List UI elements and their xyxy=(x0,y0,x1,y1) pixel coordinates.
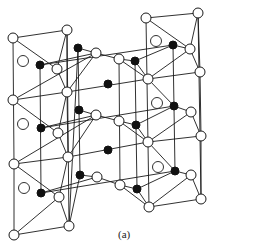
filled-circle-atom xyxy=(37,124,45,132)
crystal-structure-diagram xyxy=(0,0,262,247)
filled-circle-atom xyxy=(36,61,44,69)
filled-circle-atom xyxy=(104,80,112,88)
open-circle-atom xyxy=(91,110,101,120)
open-circle-atom xyxy=(114,116,124,126)
bond-line xyxy=(40,53,96,65)
open-circle-atom xyxy=(186,170,196,180)
large-hollow-circle-atom xyxy=(19,183,30,194)
filled-circle-atom xyxy=(171,167,179,175)
bond-line xyxy=(69,48,78,226)
bond-line xyxy=(149,175,191,207)
open-circle-atom xyxy=(193,8,203,18)
open-circle-atom xyxy=(196,194,206,204)
open-circle-atom xyxy=(91,48,101,58)
bond-line xyxy=(14,197,59,235)
figure-caption: (a) xyxy=(118,228,130,240)
large-hollow-circle-atom xyxy=(18,119,29,130)
filled-circle-atom xyxy=(75,106,83,114)
bond-line xyxy=(14,226,69,235)
bond-line xyxy=(135,45,173,61)
open-circle-atom xyxy=(9,159,19,169)
filled-circle-atom xyxy=(170,102,178,110)
bond-line xyxy=(41,106,174,128)
open-circle-atom xyxy=(92,172,102,182)
open-circle-atom xyxy=(62,87,72,97)
open-circle-atom xyxy=(54,192,64,202)
filled-circle-atom xyxy=(131,57,139,65)
large-hollow-circle-atom xyxy=(152,98,163,109)
open-circle-atom xyxy=(115,180,125,190)
open-circle-atom xyxy=(114,54,124,64)
open-circle-atom xyxy=(52,64,62,74)
open-circle-atom xyxy=(63,152,73,162)
bond-line xyxy=(146,13,198,18)
filled-circle-atom xyxy=(132,121,140,129)
bond-line xyxy=(41,171,175,193)
open-circle-atom xyxy=(53,128,63,138)
open-circle-atom xyxy=(8,95,18,105)
bond-line xyxy=(57,30,67,69)
bond-line xyxy=(149,199,201,207)
bond-line xyxy=(58,92,67,133)
bond-line xyxy=(146,18,149,207)
open-circle-atom xyxy=(8,33,18,43)
bond-line xyxy=(190,13,198,49)
open-circle-atom xyxy=(64,221,74,231)
open-circle-atom xyxy=(186,107,196,117)
open-circle-atom xyxy=(9,230,19,240)
open-circle-atom xyxy=(141,13,151,23)
filled-circle-atom xyxy=(76,171,84,179)
bond-line xyxy=(79,110,80,175)
bond-line xyxy=(59,157,68,197)
large-hollow-circle-atom xyxy=(18,56,29,67)
bond-line xyxy=(13,30,67,38)
open-circle-atom xyxy=(195,67,205,77)
bond-line xyxy=(41,115,96,128)
filled-circle-atom xyxy=(133,185,141,193)
open-circle-atom xyxy=(62,25,72,35)
atoms xyxy=(8,8,206,240)
open-circle-atom xyxy=(196,131,206,141)
filled-circle-atom xyxy=(74,44,82,52)
bond-line xyxy=(78,48,79,110)
open-circle-atom xyxy=(185,44,195,54)
filled-circle-atom xyxy=(37,189,45,197)
open-circle-atom xyxy=(143,74,153,84)
open-circle-atom xyxy=(143,137,153,147)
filled-circle-atom xyxy=(104,146,112,154)
large-hollow-circle-atom xyxy=(153,162,164,173)
open-circle-atom xyxy=(144,202,154,212)
large-hollow-circle-atom xyxy=(151,36,162,47)
filled-circle-atom xyxy=(169,41,177,49)
bond-line xyxy=(40,45,173,65)
